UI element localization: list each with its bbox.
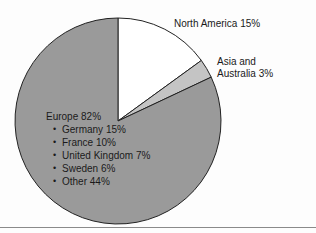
slice-label-europe: Europe 82% bbox=[46, 110, 150, 123]
europe-breakdown-list: Germany 15%France 10%United Kingdom 7%Sw… bbox=[46, 123, 150, 188]
europe-breakdown-item: Other 44% bbox=[53, 175, 150, 188]
europe-breakdown-item: Germany 15% bbox=[53, 123, 150, 136]
slice-label-asia-line1: Asia and bbox=[217, 56, 273, 68]
slice-label-asia-line2: Australia 3% bbox=[217, 68, 273, 80]
europe-breakdown-item: France 10% bbox=[53, 136, 150, 149]
europe-breakdown-item: United Kingdom 7% bbox=[53, 149, 150, 162]
slice-label-asia-australia: Asia and Australia 3% bbox=[217, 56, 273, 80]
pie-chart-figure: North America 15% Asia and Australia 3% … bbox=[0, 0, 316, 233]
europe-breakdown-item: Sweden 6% bbox=[53, 162, 150, 175]
slice-label-north-america: North America 15% bbox=[174, 18, 260, 30]
slice-label-europe-block: Europe 82% Germany 15%France 10%United K… bbox=[46, 110, 150, 188]
bottom-divider bbox=[0, 227, 316, 228]
